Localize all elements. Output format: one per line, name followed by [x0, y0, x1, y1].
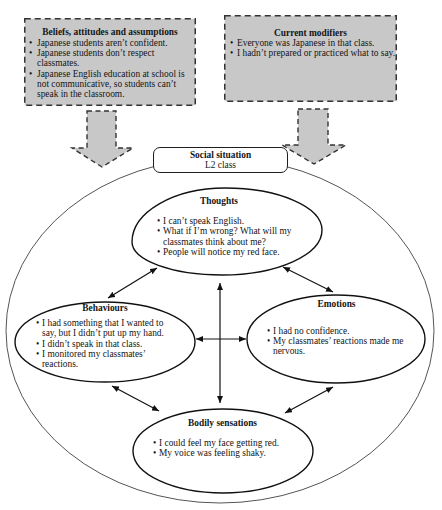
modifiers-list: Everyone was Japanese in that class. I h…	[237, 38, 399, 58]
list-item: Everyone was Japanese in that class.	[237, 38, 399, 48]
beliefs-down-arrow-icon	[72, 111, 133, 167]
list-item: I monitored my classmates’ reactions.	[42, 349, 172, 370]
list-item: What if I’m wrong? What will my classmat…	[163, 226, 298, 247]
list-item: People will notice my red face.	[163, 247, 298, 257]
list-item: I can’t speak English.	[163, 216, 298, 226]
thoughts-list: I can’t speak English. What if I’m wrong…	[163, 216, 298, 257]
list-item: Japanese English education at school is …	[37, 69, 191, 100]
modifiers-title: Current modifiers	[224, 28, 397, 38]
behaviours-node: Behaviours I had something that I wanted…	[15, 302, 195, 382]
modifiers-down-arrow-icon	[282, 109, 346, 164]
list-item: My voice was feeling shaky.	[159, 448, 289, 458]
thoughts-title: Thoughts	[159, 196, 279, 206]
social-situation-title: Social situation	[154, 150, 287, 160]
emotions-node: Emotions I had no confidence. My classma…	[247, 295, 425, 383]
modifiers-box: Current modifiers Everyone was Japanese …	[224, 15, 397, 102]
list-item: Japanese students don’t respect classmat…	[37, 48, 191, 68]
thoughts-node: Thoughts I can’t speak English. What if …	[137, 189, 321, 271]
behaviours-title: Behaviours	[45, 303, 165, 313]
list-item: Japanese students aren’t confident.	[37, 38, 191, 48]
emotions-list: I had no confidence. My classmates’ reac…	[273, 326, 413, 357]
bodily-sensations-node: Bodily sensations I could feel my face g…	[133, 412, 313, 492]
list-item: I could feel my face getting red.	[159, 438, 289, 448]
bodily-sensations-title: Bodily sensations	[163, 418, 283, 428]
list-item: I hadn’t prepared or practiced what to s…	[237, 48, 399, 58]
beliefs-box: Beliefs, attitudes and assumptions Japan…	[24, 18, 196, 106]
beliefs-title: Beliefs, attitudes and assumptions	[24, 27, 196, 37]
bodily-sensations-list: I could feel my face getting red. My voi…	[159, 438, 289, 459]
cognitive-model-diagram: Beliefs, attitudes and assumptions Japan…	[0, 0, 442, 510]
list-item: I had no confidence.	[273, 326, 413, 336]
beliefs-list: Japanese students aren’t confident. Japa…	[37, 38, 191, 99]
emotions-bodily-arrow	[285, 387, 333, 413]
behaviours-bodily-arrow	[112, 386, 159, 411]
thoughts-behaviours-arrow	[108, 268, 157, 298]
social-situation-box: Social situation L2 class	[153, 147, 288, 173]
list-item: I had something that I wanted to say, bu…	[42, 318, 172, 339]
list-item: I didn’t speak in that class.	[42, 339, 172, 349]
list-item: My classmates’ reactions made me nervous…	[273, 336, 413, 357]
emotions-title: Emotions	[277, 299, 397, 309]
social-situation-subtitle: L2 class	[154, 160, 287, 170]
behaviours-list: I had something that I wanted to say, bu…	[42, 318, 172, 369]
